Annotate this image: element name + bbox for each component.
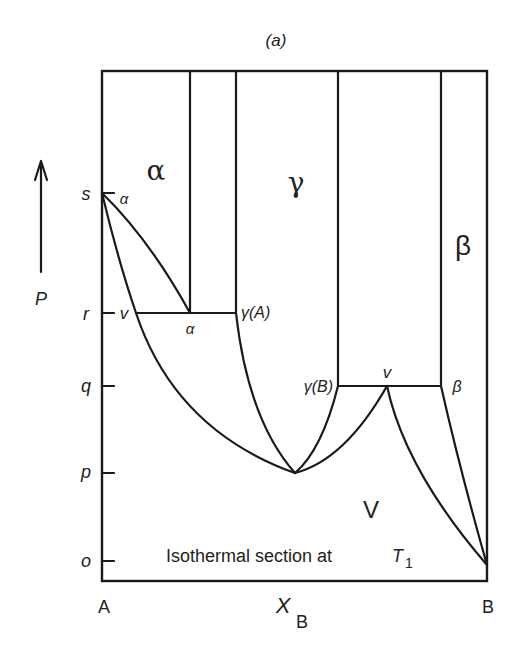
gamma-b-curve [295, 386, 338, 473]
alpha-solidus-curve [102, 193, 190, 313]
label-q-gamma-b: γ(B) [304, 378, 333, 395]
label-r-alpha: α [186, 320, 195, 337]
vapor-curve-middle [295, 386, 387, 473]
vapor-curve-right [387, 386, 487, 565]
label-r-v: v [120, 304, 130, 323]
x-axis-label: X [275, 593, 292, 618]
tick-label-p: p [80, 462, 91, 482]
plot-frame [102, 71, 487, 581]
x-left-label: A [98, 597, 110, 617]
tick-label-s: s [82, 184, 91, 204]
tick-label-q: q [81, 376, 91, 396]
tick-label-r: r [83, 304, 90, 324]
region-beta-label: β [455, 230, 471, 261]
caption-text: Isothermal section at [166, 546, 332, 566]
caption-subscript: 1 [405, 555, 413, 571]
caption-variable: T [392, 546, 405, 566]
label-s-alpha: α [120, 190, 129, 207]
region-vapor-label: V [363, 496, 379, 523]
region-alpha-label: α [147, 154, 166, 187]
vapor-curve-left [136, 313, 295, 473]
label-q-v: v [383, 363, 393, 382]
phase-diagram: (a) P s r q p o A B X B α γ β V α v α γ [0, 0, 518, 662]
x-axis-subscript: B [296, 612, 308, 632]
y-axis-label: P [35, 289, 47, 309]
region-gamma-label: γ [288, 166, 305, 199]
x-right-label: B [482, 597, 494, 617]
label-q-beta: β [451, 378, 461, 395]
panel-label: (a) [266, 31, 287, 50]
label-r-gamma-a: γ(A) [241, 304, 270, 321]
tick-label-o: o [81, 551, 91, 571]
figure-caption: Isothermal section at [166, 546, 332, 566]
